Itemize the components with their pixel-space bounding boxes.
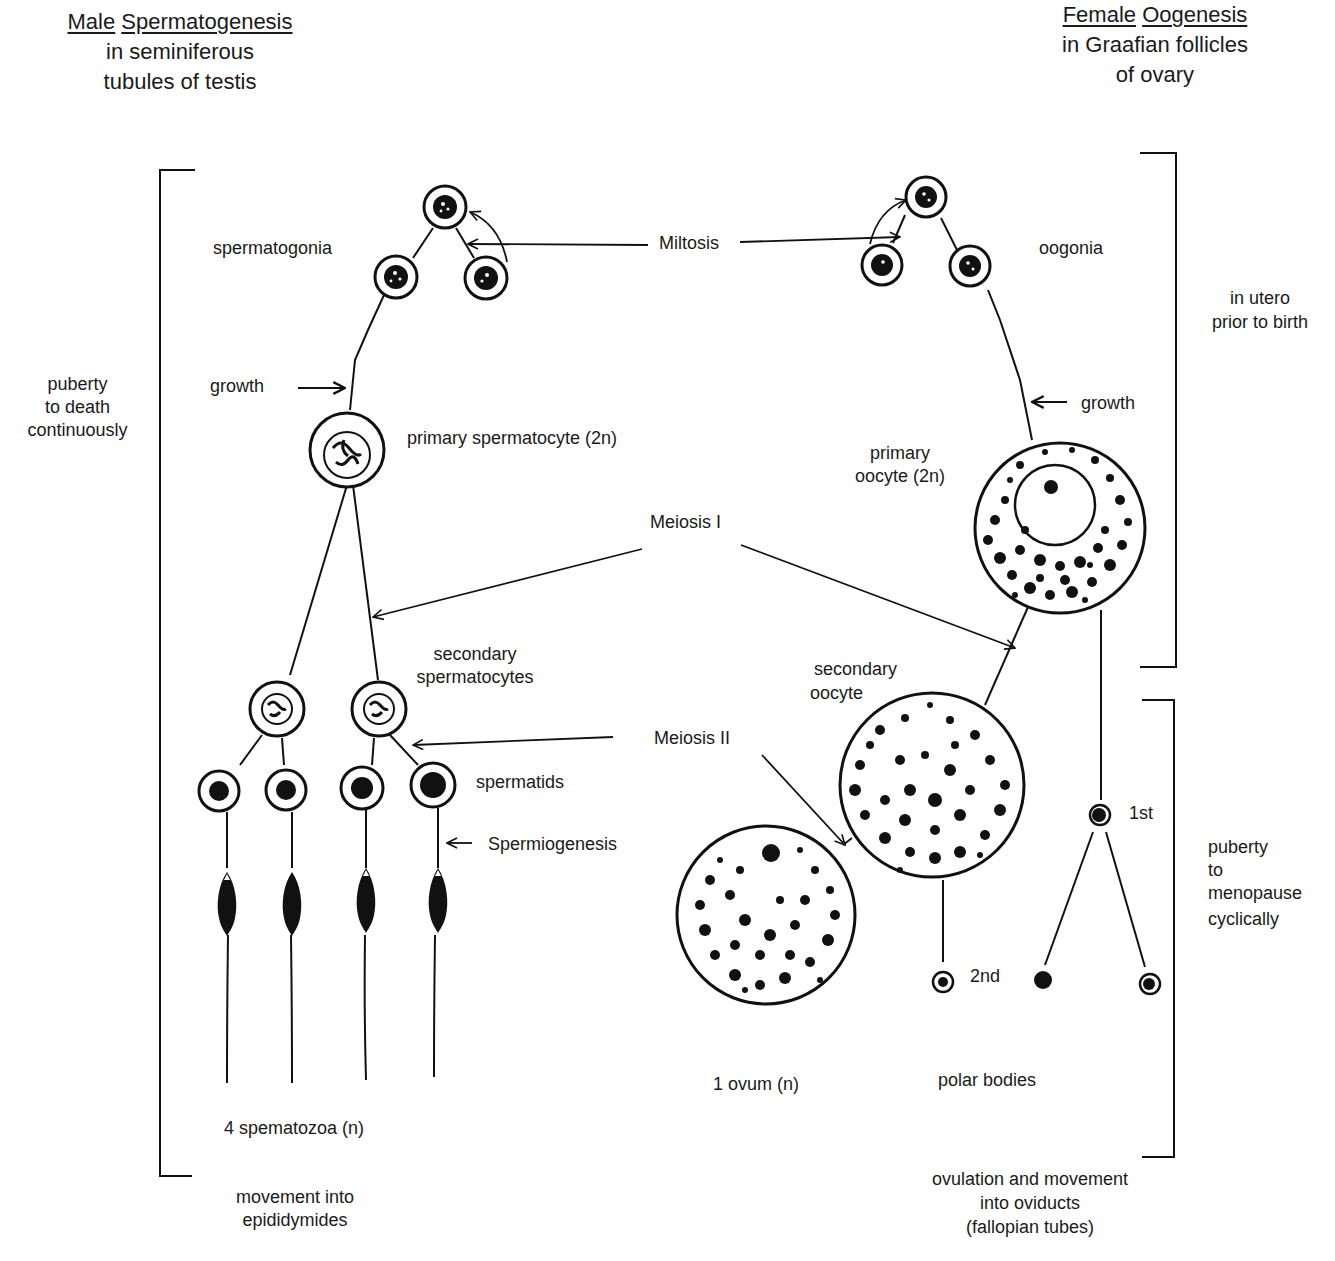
label-secondary-spermatocytes-2: spermatocytes: [400, 665, 550, 689]
label-secondary-spermatocytes-1: secondary: [400, 642, 550, 666]
female-timing-lower-1: puberty: [1208, 835, 1268, 859]
label-spermatozoa: 4 spematozoa (n): [224, 1116, 364, 1140]
label-spermiogenesis: Spermiogenesis: [488, 832, 617, 856]
secondary-oocyte-cell: [840, 693, 1024, 877]
label-polar-1st: 1st: [1129, 801, 1153, 825]
female-timing-lower-4: cyclically: [1208, 907, 1279, 931]
female-upper-bracket: [1140, 153, 1176, 667]
female-destination-1: ovulation and movement: [910, 1167, 1150, 1191]
male-timing-1: puberty: [10, 372, 145, 396]
primary-spermatocyte-cell: [310, 413, 384, 487]
label-mitosis: Miltosis: [659, 231, 719, 255]
female-timing-upper-2: prior to birth: [1195, 310, 1325, 334]
female-lower-bracket: [1142, 700, 1174, 1157]
label-primary-oocyte-1: primary: [835, 441, 965, 465]
gametogenesis-diagram: [0, 0, 1335, 1261]
label-primary-oocyte-2: oocyte (2n): [835, 464, 965, 488]
male-timing-2: to death: [10, 395, 145, 419]
label-female-growth: growth: [1081, 391, 1135, 415]
female-timing-lower-3: menopause: [1208, 881, 1302, 905]
female-destination-3: (fallopian tubes): [910, 1215, 1150, 1239]
label-primary-spermatocyte: primary spermatocyte (2n): [407, 426, 617, 450]
spermatid-cells: [199, 763, 455, 811]
female-timing-upper-1: in utero: [1195, 286, 1325, 310]
label-polar-2nd: 2nd: [970, 964, 1000, 988]
oogonia-cells: [862, 177, 990, 286]
female-destination-2: into oviducts: [910, 1191, 1150, 1215]
female-timing-lower-2: to: [1208, 858, 1223, 882]
ovum-cell: [677, 826, 855, 1004]
male-timing-3: continuously: [10, 418, 145, 442]
label-male-growth: growth: [210, 374, 264, 398]
label-secondary-oocyte-2: oocyte: [810, 681, 863, 705]
label-oogonia: oogonia: [1039, 236, 1103, 260]
label-meiosis-2: Meiosis II: [654, 726, 730, 750]
label-spermatids: spermatids: [476, 770, 564, 794]
primary-oocyte-cell: [975, 443, 1145, 613]
spermatogonia-cells: [375, 186, 507, 299]
male-destination-1: movement into: [210, 1185, 380, 1209]
label-polar-bodies: polar bodies: [938, 1068, 1036, 1092]
male-bracket: [160, 170, 195, 1176]
secondary-spermatocyte-cells: [250, 682, 406, 736]
spermatozoa: [218, 868, 448, 936]
label-ovum: 1 ovum (n): [713, 1072, 799, 1096]
label-meiosis-1: Meiosis I: [650, 510, 721, 534]
label-spermatogonia: spermatogonia: [213, 236, 332, 260]
label-secondary-oocyte-1: secondary: [814, 657, 897, 681]
male-destination-2: epididymides: [210, 1208, 380, 1232]
